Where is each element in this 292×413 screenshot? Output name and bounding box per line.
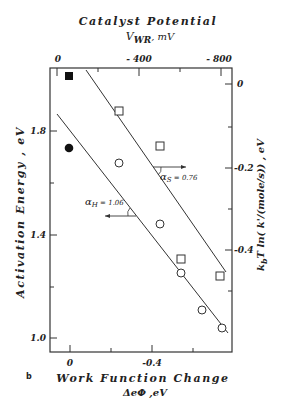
top-ticks (57, 68, 221, 76)
left-tick-label: 1.4 (30, 230, 46, 240)
right-axis-title: kbT ln( k'/(mole/s)) , eV (255, 138, 269, 271)
right-tick-label: -0.4 (234, 245, 253, 255)
top-tick-label: 0 (55, 54, 62, 64)
open-circle-marker (198, 306, 206, 314)
top-tick-label: - 400 (126, 54, 152, 64)
bottom-tick-label: -0.4 (142, 358, 161, 368)
fit-line-alpha-h (57, 114, 228, 333)
top-axis-unit: VWR, mV (126, 30, 176, 45)
left-tick-label: 1.8 (30, 126, 46, 136)
open-square-marker (115, 107, 123, 115)
left-ticks (50, 131, 57, 338)
top-tick-label: - 800 (206, 54, 232, 64)
open-square-marker (156, 142, 164, 150)
bottom-ticks (70, 345, 193, 352)
right-ticks (225, 84, 232, 291)
filled-circle-marker (65, 144, 74, 153)
open-square-marker (216, 272, 224, 280)
open-circle-marker (115, 159, 123, 167)
left-tick-label: 1.0 (30, 333, 46, 343)
open-square-marker (177, 255, 185, 263)
bottom-axis-unit: ΔeΦ ,eV (122, 387, 168, 399)
open-circle-marker (177, 269, 185, 277)
right-tick-label: -0.2 (234, 163, 253, 173)
right-tick-label: 0 (237, 79, 244, 89)
alpha-s-label: αS = 0.76 (160, 171, 198, 184)
bottom-tick-label: 0 (67, 358, 74, 368)
alpha-s-annotation: αS = 0.76 (153, 165, 198, 184)
panel-label: b (26, 372, 32, 381)
alpha-h-label: αH = 1.06 (85, 196, 124, 209)
top-axis-title: Catalyst Potential (79, 15, 218, 28)
chart: Catalyst Potential VWR, mV 0 - 400 - 800 (0, 0, 292, 413)
filled-square-marker (65, 72, 73, 80)
open-square-series (115, 107, 224, 280)
alpha-h-annotation: αH = 1.06 (85, 196, 136, 218)
open-circle-marker (156, 220, 164, 228)
bottom-axis-title: Work Function Change (56, 372, 229, 385)
open-circle-marker (218, 324, 226, 332)
open-circle-series (115, 159, 226, 332)
fit-line-alpha-s (86, 70, 226, 272)
left-axis-title: Activation Energy , eV (14, 126, 27, 299)
